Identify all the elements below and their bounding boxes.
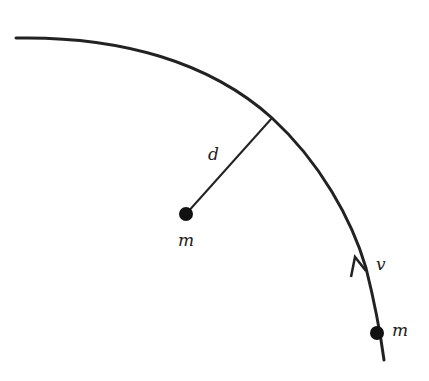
distance-line: [186, 118, 272, 214]
diagram-svg: [0, 0, 429, 381]
moving-mass-label: m: [392, 320, 408, 340]
diagram-canvas: d m v m: [0, 0, 429, 381]
central-mass-label: m: [178, 230, 194, 250]
velocity-label: v: [376, 254, 386, 274]
central-mass-dot: [179, 207, 193, 221]
distance-label: d: [208, 144, 219, 164]
moving-mass-dot: [370, 326, 384, 340]
